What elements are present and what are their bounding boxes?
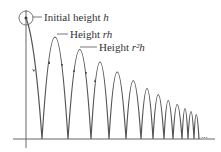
label-text: Initial height [44, 11, 103, 23]
ellipsis: ... [201, 130, 208, 141]
label-height-rh: Height rh [70, 29, 112, 40]
label-height-r2h: Height r²h [99, 42, 145, 53]
label-var: h [103, 11, 109, 23]
bouncing-ball-diagram: Initial height h Height rh Height r²h ..… [0, 0, 221, 152]
diagram-canvas [0, 0, 221, 152]
arrow-down-1 [32, 69, 35, 72]
arrow-down-2 [61, 64, 63, 67]
label-initial-height: Initial height h [44, 12, 109, 23]
bounce-curve [26, 18, 199, 139]
label-var: r²h [132, 41, 145, 53]
label-var: rh [103, 28, 113, 40]
label-text: Height [70, 28, 103, 40]
label-text: Height [99, 41, 132, 53]
